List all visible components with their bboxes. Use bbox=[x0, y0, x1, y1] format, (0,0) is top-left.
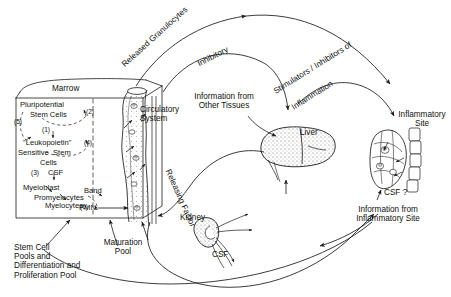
arrow-csf-question bbox=[377, 190, 381, 200]
label-information-other-tissues: Information from Other Tissues bbox=[170, 92, 278, 110]
label-csf-question: CSF ? bbox=[384, 188, 407, 197]
inflammatory-site-graphic bbox=[370, 128, 421, 192]
marrow-box-label: Marrow bbox=[52, 84, 79, 93]
marker-1: (1) bbox=[42, 126, 50, 133]
label-inflammatory-site: Inflammatory Site bbox=[392, 110, 451, 128]
marker-3: (3) bbox=[31, 169, 39, 176]
label-kidney: Kidney bbox=[180, 213, 205, 222]
diagram-canvas: Marrow Pluripotential Stem Cells (5) (2)… bbox=[0, 0, 451, 297]
label-maturation-pool: Maturation Pool bbox=[96, 238, 150, 256]
label-csf-marrow: CSF bbox=[48, 169, 63, 178]
label-myelocytes: Myelocytes bbox=[45, 202, 83, 211]
arc-released-granulocytes bbox=[136, 15, 390, 86]
marker-4: (4) bbox=[84, 139, 92, 146]
label-stem-cell-pools: Stem Cell Pools and Differentiation and … bbox=[14, 243, 80, 280]
arc-outer-return bbox=[147, 214, 374, 287]
label-csf-kidney: CSF bbox=[212, 250, 228, 259]
label-pmn: PMN bbox=[79, 204, 96, 213]
marker-2: (2) bbox=[86, 108, 94, 115]
label-myeloblast: Myeloblast bbox=[23, 184, 59, 193]
label-pluripotential: Pluripotential bbox=[20, 101, 64, 110]
label-band: Band bbox=[84, 187, 102, 196]
marker-5: (5) bbox=[14, 118, 22, 125]
label-information-from-inflammatory-site: Information from Inflammatory Site bbox=[332, 205, 444, 223]
liver-organ bbox=[261, 127, 335, 182]
label-cells: Cells bbox=[40, 159, 57, 168]
label-stem-cells: Stem Cells bbox=[30, 111, 67, 120]
label-liver: Liver bbox=[300, 128, 318, 137]
label-sensitive-stem: Sensitive Stem bbox=[18, 149, 71, 158]
label-leukopoietin: "Leukopoietin" bbox=[23, 139, 71, 148]
